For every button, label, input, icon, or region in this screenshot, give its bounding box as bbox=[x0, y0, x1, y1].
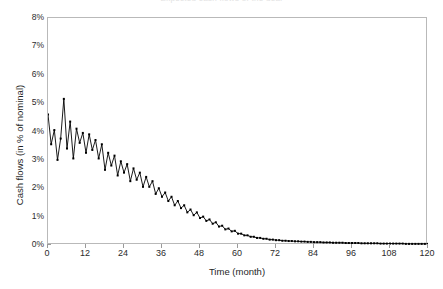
data-point bbox=[107, 152, 109, 154]
data-point bbox=[319, 241, 321, 243]
data-point bbox=[234, 230, 236, 232]
data-point bbox=[247, 234, 249, 236]
data-point bbox=[196, 211, 198, 213]
data-point bbox=[114, 155, 116, 157]
data-point bbox=[348, 242, 350, 244]
data-point bbox=[133, 167, 135, 169]
data-point bbox=[79, 142, 81, 144]
data-point bbox=[335, 242, 337, 244]
data-point bbox=[110, 165, 112, 167]
data-point bbox=[123, 172, 125, 174]
data-point bbox=[316, 241, 318, 243]
data-point bbox=[253, 236, 255, 238]
data-point bbox=[66, 148, 68, 150]
data-point bbox=[82, 132, 84, 134]
data-point bbox=[148, 186, 150, 188]
data-point bbox=[76, 128, 78, 130]
data-point bbox=[63, 98, 65, 100]
data-point bbox=[259, 237, 261, 239]
data-point bbox=[364, 242, 366, 244]
data-point bbox=[367, 242, 369, 244]
data-point bbox=[411, 243, 413, 245]
data-point bbox=[145, 176, 147, 178]
data-point bbox=[126, 163, 128, 165]
y-tick-label: 2% bbox=[4, 182, 44, 192]
data-point bbox=[304, 241, 306, 243]
data-point bbox=[281, 240, 283, 242]
data-point bbox=[164, 192, 166, 194]
data-point bbox=[69, 121, 71, 123]
x-tick-label: 60 bbox=[232, 248, 242, 258]
data-point bbox=[402, 243, 404, 245]
data-point bbox=[167, 200, 169, 202]
data-point bbox=[313, 241, 315, 243]
data-point bbox=[278, 239, 280, 241]
data-point bbox=[95, 139, 97, 141]
data-point bbox=[152, 180, 154, 182]
data-point bbox=[60, 138, 62, 140]
data-point bbox=[129, 180, 131, 182]
data-point bbox=[326, 241, 328, 243]
data-point bbox=[361, 242, 363, 244]
data-point bbox=[275, 239, 277, 241]
y-tick-label: 4% bbox=[4, 126, 44, 136]
x-tick-label: 108 bbox=[381, 248, 396, 258]
data-point bbox=[272, 239, 274, 241]
data-point bbox=[209, 218, 211, 220]
data-point bbox=[297, 240, 299, 242]
chart-title: Expected cash flows of the deal bbox=[0, 0, 443, 3]
data-point bbox=[72, 157, 74, 159]
data-point bbox=[186, 211, 188, 213]
data-point bbox=[221, 225, 223, 227]
data-point bbox=[161, 196, 163, 198]
data-point bbox=[224, 228, 226, 230]
data-point bbox=[180, 207, 182, 209]
data-point bbox=[183, 204, 185, 206]
data-point bbox=[212, 223, 214, 225]
x-tick-label: 48 bbox=[194, 248, 204, 258]
data-point bbox=[395, 243, 397, 245]
data-point bbox=[414, 243, 416, 245]
data-point bbox=[85, 152, 87, 154]
data-point bbox=[231, 230, 233, 232]
data-point bbox=[408, 243, 410, 245]
y-tick-label: 6% bbox=[4, 69, 44, 79]
data-point bbox=[158, 187, 160, 189]
series-markers bbox=[48, 98, 428, 245]
data-point bbox=[338, 242, 340, 244]
data-point bbox=[53, 129, 55, 131]
y-tick-label: 5% bbox=[4, 97, 44, 107]
data-point bbox=[199, 217, 201, 219]
data-point bbox=[285, 240, 287, 242]
data-point bbox=[424, 243, 426, 245]
data-point bbox=[354, 242, 356, 244]
data-point bbox=[88, 133, 90, 135]
data-point bbox=[383, 243, 385, 245]
data-point bbox=[174, 204, 176, 206]
data-point bbox=[228, 228, 230, 230]
data-point bbox=[392, 243, 394, 245]
data-point bbox=[345, 242, 347, 244]
data-point bbox=[399, 243, 401, 245]
data-point bbox=[250, 236, 252, 238]
data-point bbox=[262, 238, 264, 240]
data-point bbox=[237, 233, 239, 235]
x-tick-label: 36 bbox=[156, 248, 166, 258]
series-line bbox=[48, 99, 428, 244]
data-point bbox=[57, 159, 59, 161]
y-axis-tick-labels: 0%1%2%3%4%5%6%7%8% bbox=[0, 0, 44, 289]
data-point bbox=[329, 241, 331, 243]
data-point bbox=[120, 160, 122, 162]
data-point bbox=[288, 240, 290, 242]
data-point bbox=[218, 226, 220, 228]
data-point bbox=[386, 243, 388, 245]
data-point bbox=[380, 243, 382, 245]
y-tick-label: 0% bbox=[4, 239, 44, 249]
data-point bbox=[243, 234, 245, 236]
data-point bbox=[418, 243, 420, 245]
y-tick-label: 8% bbox=[4, 12, 44, 22]
data-point bbox=[256, 237, 258, 239]
x-tick-label: 84 bbox=[308, 248, 318, 258]
x-tick-label: 72 bbox=[270, 248, 280, 258]
data-point bbox=[202, 216, 204, 218]
